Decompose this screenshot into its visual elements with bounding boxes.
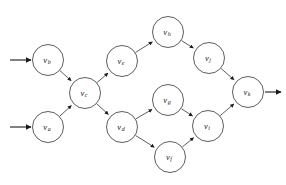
edge-vi-to-vk xyxy=(220,104,234,116)
graph-diagram-root: vbvavcvevdvhvgvfvjvivk xyxy=(0,0,286,185)
node-ve[interactable]: ve xyxy=(107,46,138,77)
node-vc[interactable]: vc xyxy=(70,78,101,109)
node-vk[interactable]: vk xyxy=(233,77,264,108)
edge-vd-to-vg xyxy=(136,109,152,119)
edge-vb-to-vc xyxy=(60,71,71,81)
edge-vc-to-ve xyxy=(97,73,108,82)
edge-vd-to-vf xyxy=(136,135,155,147)
graph-canvas: vbvavcvevdvhvgvfvjvivk xyxy=(0,0,286,185)
node-vf[interactable]: vf xyxy=(155,142,186,173)
edge-ve-to-vh xyxy=(136,42,153,53)
edge-vc-to-vd xyxy=(97,104,109,115)
node-vh[interactable]: vh xyxy=(153,17,184,48)
node-vg[interactable]: vg xyxy=(153,85,184,116)
edge-vf-to-vi xyxy=(182,138,193,147)
node-vd[interactable]: vd xyxy=(107,112,138,143)
edge-vg-to-vi xyxy=(181,109,192,116)
node-vb[interactable]: vb xyxy=(33,45,64,76)
nodes-layer: vbvavcvevdvhvgvfvjvivk xyxy=(33,17,264,173)
node-va[interactable]: va xyxy=(33,112,64,143)
edge-vh-to-vj xyxy=(182,41,194,49)
edge-vj-to-vk xyxy=(221,69,234,80)
node-vj[interactable]: vj xyxy=(194,43,225,74)
edge-va-to-vc xyxy=(60,106,72,117)
node-vi[interactable]: vi xyxy=(193,111,224,142)
